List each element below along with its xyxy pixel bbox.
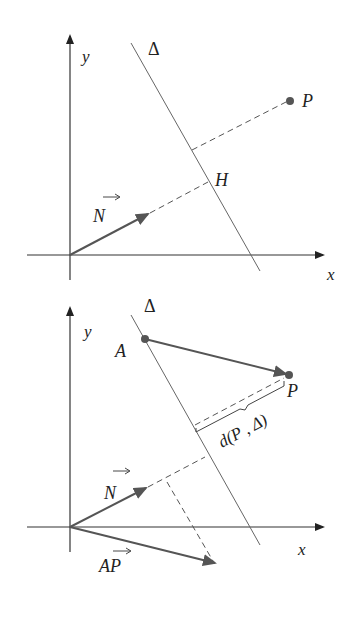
y-axis-label: y (82, 322, 92, 341)
point-a-label: A (114, 341, 127, 361)
distance-point-line-diagram: y x Δ P H N y x Δ A P d(P , Δ) (0, 0, 356, 619)
y-axis-label: y (80, 47, 90, 66)
vector-arrow-icon (113, 548, 131, 554)
dashed-extension-n (150, 182, 208, 213)
vector-arrow-icon (103, 194, 120, 200)
x-axis-label: x (326, 265, 335, 284)
line-delta-label: Δ (144, 296, 156, 316)
point-p-label: P (286, 381, 298, 401)
dashed-perpendicular-p (195, 378, 284, 425)
line-delta (131, 43, 260, 271)
figure-bottom: y x Δ A P d(P , Δ) N AP (27, 296, 323, 576)
normal-vector-label: N (92, 206, 106, 226)
vector-arrow-icon (113, 468, 130, 474)
x-axis-label: x (297, 540, 306, 559)
ap-vector (70, 527, 215, 563)
normal-vector (70, 214, 148, 255)
distance-label: d(P , Δ) (215, 410, 271, 452)
foot-h-label: H (214, 170, 229, 190)
point-p (285, 371, 293, 379)
ap-vector-label: AP (98, 556, 121, 576)
figure-top: y x Δ P H N (27, 36, 335, 284)
line-delta-label: Δ (148, 39, 160, 59)
dashed-perpendicular-p (192, 102, 286, 150)
vector-ap-on-line (145, 339, 286, 374)
dashed-projection (167, 482, 213, 561)
dashed-extension-n (148, 457, 205, 487)
point-p-label: P (301, 91, 313, 111)
normal-vector-label: N (103, 483, 117, 503)
point-p (286, 97, 294, 105)
